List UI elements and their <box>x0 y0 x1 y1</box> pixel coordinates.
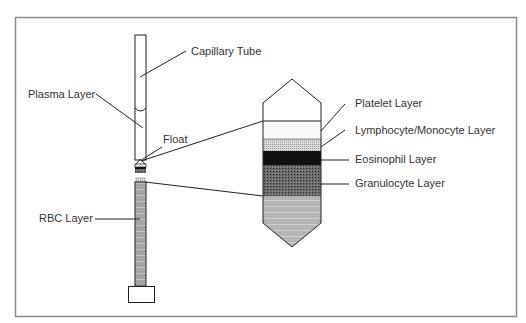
expanded-float <box>262 78 322 248</box>
granulocyte-band <box>262 165 322 196</box>
rbc-column <box>135 182 146 286</box>
label-lymphocyte-monocyte-layer: Lymphocyte/Monocyte Layer <box>355 124 496 136</box>
label-rbc-layer: RBC Layer <box>39 212 93 224</box>
label-eosinophil-layer: Eosinophil Layer <box>355 153 437 165</box>
platelet-band <box>262 121 322 139</box>
label-platelet-layer: Platelet Layer <box>355 97 423 109</box>
label-plasma-layer: Plasma Layer <box>28 88 96 100</box>
label-float: Float <box>163 133 187 145</box>
lymphocyte-monocyte-band <box>262 139 322 151</box>
eosinophil-band <box>262 151 322 165</box>
label-granulocyte-layer: Granulocyte Layer <box>355 177 445 189</box>
hematology-tube-diagram: Capillary Tube Plasma Layer Float RBC La… <box>0 0 526 323</box>
tube-base <box>129 287 155 303</box>
label-capillary-tube: Capillary Tube <box>191 45 261 57</box>
